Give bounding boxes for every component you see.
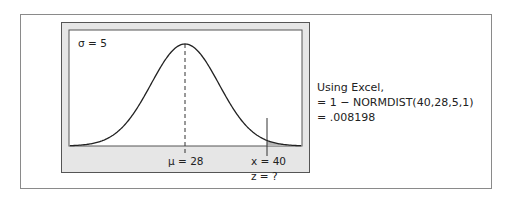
note-line: = .008198 [317,110,473,125]
excel-note: Using Excel, = 1 − NORMDIST(40,28,5,1) =… [317,80,473,125]
x-label: x = 40 [251,155,286,167]
note-line: Using Excel, [317,80,473,95]
z-label: z = ? [251,170,278,182]
sigma-label: σ = 5 [78,37,107,49]
mu-label: μ = 28 [168,155,204,167]
note-line: = 1 − NORMDIST(40,28,5,1) [317,95,473,110]
